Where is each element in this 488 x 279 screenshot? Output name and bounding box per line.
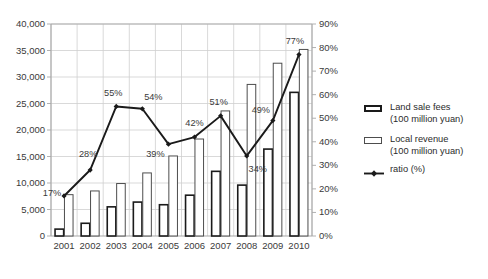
legend-sublabel: (100 million yuan)	[390, 114, 463, 126]
chart-container: 05,00010,00015,00020,00025,00030,00035,0…	[0, 0, 488, 279]
ratio-value-label: 51%	[209, 98, 227, 107]
ratio-value-label: 77%	[286, 37, 304, 46]
ratio-value-label: 54%	[144, 93, 162, 102]
legend-label: Land sale fees	[390, 102, 450, 114]
ratio-value-label: 49%	[252, 106, 270, 115]
legend-swatch-land-sale-fees	[364, 105, 382, 112]
legend-label: ratio (%)	[390, 164, 425, 176]
legend-item[interactable]: Local revenue(100 million yuan)	[364, 135, 488, 161]
legend-label: Local revenue	[390, 134, 448, 146]
legend-swatch-local-revenue	[364, 137, 382, 144]
ratio-value-label: 34%	[249, 165, 267, 174]
ratio-value-label: 42%	[185, 119, 203, 128]
legend-item[interactable]: Land sale fees(100 million yuan)	[364, 103, 488, 129]
legend-sublabel: (100 million yuan)	[390, 146, 463, 158]
ratio-value-label: 28%	[79, 150, 97, 159]
line-marker-icon	[364, 169, 384, 178]
ratio-value-label: 39%	[146, 151, 164, 160]
legend-item[interactable]: ratio (%)	[364, 165, 488, 191]
ratio-value-label: 55%	[104, 90, 122, 99]
ratio-value-label: 17%	[43, 189, 61, 198]
